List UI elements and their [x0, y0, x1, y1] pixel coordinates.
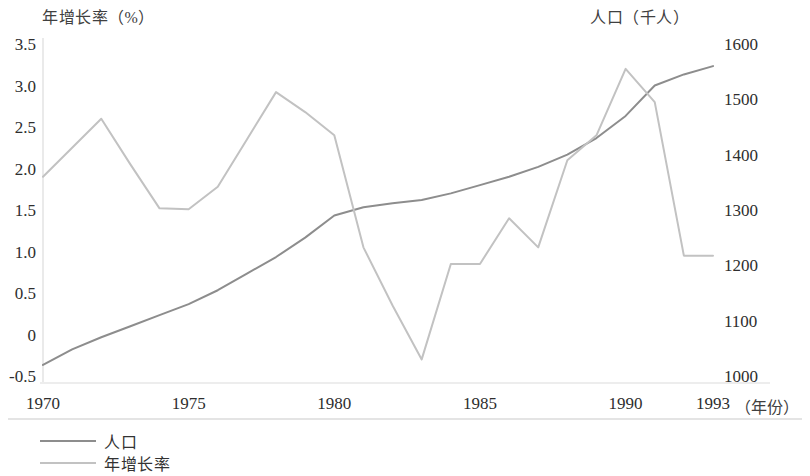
legend-item-人口: 人口 [40, 430, 340, 452]
series-line-人口 [43, 66, 713, 365]
series-paths [43, 66, 713, 365]
dual-axis-line-chart: 年增长率（%） 人口（千人） 3.53.02.52.01.51.00.50-0.… [0, 0, 810, 476]
plot-area [0, 0, 810, 476]
chart-legend: 人口年增长率 [40, 430, 340, 474]
series-line-年增长率 [43, 69, 713, 360]
legend-label: 人口 [104, 429, 137, 453]
legend-swatch-icon [40, 440, 96, 442]
legend-item-年增长率: 年增长率 [40, 452, 340, 474]
legend-swatch-icon [40, 462, 96, 464]
legend-label: 年增长率 [104, 451, 170, 475]
